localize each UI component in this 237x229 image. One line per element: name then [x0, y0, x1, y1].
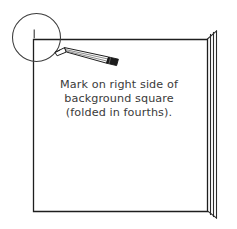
caption-line-3: (folded in fourths). [44, 106, 194, 120]
instruction-illustration: Mark on right side of background square … [0, 0, 237, 229]
caption-line-1: Mark on right side of [44, 78, 194, 92]
folded-paper-layers [208, 31, 217, 218]
caption-line-2: background square [44, 92, 194, 106]
caption: Mark on right side of background square … [44, 78, 194, 121]
background-square [34, 40, 208, 212]
